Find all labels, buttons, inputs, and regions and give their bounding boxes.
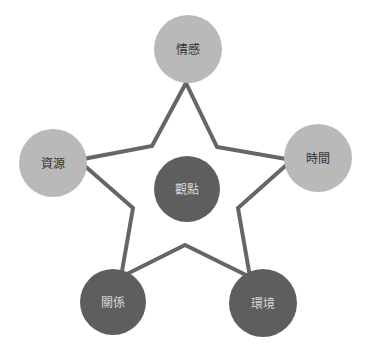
node-bottom-left-label: 關係 [101, 296, 125, 310]
node-right[interactable]: 時間 [284, 124, 352, 192]
node-center-label: 觀點 [175, 183, 199, 197]
node-top[interactable]: 情感 [154, 15, 222, 83]
node-bottom-left[interactable]: 關係 [80, 269, 146, 335]
node-left-label: 資源 [41, 157, 65, 171]
node-bottom-right[interactable]: 環境 [229, 269, 297, 337]
node-right-label: 時間 [306, 152, 330, 166]
node-top-label: 情感 [176, 42, 200, 57]
node-center[interactable]: 觀點 [154, 156, 220, 222]
star-diagram: 情感 時間 環境 關係 資源 觀點 [0, 0, 371, 357]
node-bottom-right-label: 環境 [251, 296, 275, 311]
node-left[interactable]: 資源 [19, 129, 87, 197]
